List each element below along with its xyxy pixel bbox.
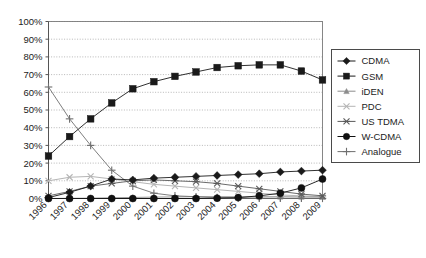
x-axis-tick-label: 2001 xyxy=(132,199,155,222)
x-axis-tick-label: 2009 xyxy=(300,199,323,222)
x-axis-tick-label: 2005 xyxy=(216,199,239,222)
chart-legend: CDMAGSMiDENPDCUS TDMAW-CDMAAnalogue xyxy=(332,50,420,163)
x-axis-tick-label: 1998 xyxy=(68,199,91,222)
diamond-marker xyxy=(150,174,158,182)
x-axis-tick-label: 2003 xyxy=(174,199,197,222)
series-gsm xyxy=(45,62,326,160)
circle-marker xyxy=(298,184,305,191)
circle-marker xyxy=(256,192,263,199)
diamond-marker xyxy=(319,166,327,174)
diamond-marker xyxy=(171,173,179,181)
circle-marker xyxy=(319,176,326,183)
y-axis-tick-label: 60% xyxy=(23,87,43,98)
circle-marker xyxy=(277,190,284,197)
circle-marker xyxy=(343,133,349,139)
chart-container: 0%10%20%30%40%50%60%70%80%90%100% 199619… xyxy=(0,0,426,258)
legend-label: Analogue xyxy=(362,146,402,157)
square-marker xyxy=(256,62,263,69)
legend-label: CDMA xyxy=(362,55,391,66)
x-axis-tick-label: 2006 xyxy=(237,199,260,222)
legend-label: iDEN xyxy=(362,86,384,97)
diamond-marker xyxy=(129,176,137,184)
y-axis-tick-label: 90% xyxy=(23,34,43,45)
square-marker xyxy=(66,133,73,140)
x-axis-tick-label: 2007 xyxy=(258,199,281,222)
asterisk-marker xyxy=(235,183,242,189)
circle-marker xyxy=(235,194,242,201)
square-marker xyxy=(214,64,221,71)
square-marker xyxy=(298,68,305,75)
square-marker xyxy=(45,153,52,160)
series-analogue xyxy=(45,83,327,202)
y-axis-tick-label: 30% xyxy=(23,140,43,151)
circle-marker xyxy=(108,195,115,202)
square-marker xyxy=(344,73,350,79)
gridlines xyxy=(49,22,323,181)
x-axis-tick-label: 2008 xyxy=(279,199,302,222)
x-axis-tick-label: 2002 xyxy=(153,199,176,222)
plus-marker xyxy=(45,83,53,91)
asterisk-marker xyxy=(256,186,263,192)
diamond-marker xyxy=(276,168,284,176)
square-marker xyxy=(319,77,326,84)
y-axis-tick-label: 10% xyxy=(23,175,43,186)
x-axis-tick-label: 1997 xyxy=(47,199,70,222)
asterisk-marker xyxy=(214,180,221,186)
circle-marker xyxy=(171,195,178,202)
square-marker xyxy=(235,62,242,69)
square-marker xyxy=(151,78,158,85)
circle-marker xyxy=(66,195,73,202)
circle-marker xyxy=(45,195,52,202)
legend-label: PDC xyxy=(362,101,382,112)
y-axis-tick-labels: 0%10%20%30%40%50%60%70%80%90%100% xyxy=(18,16,48,204)
diamond-marker xyxy=(234,171,242,179)
x-axis-tick-label: 2004 xyxy=(195,199,218,222)
y-axis-tick-label: 70% xyxy=(23,69,43,80)
circle-marker xyxy=(150,195,157,202)
circle-marker xyxy=(129,195,136,202)
series-layer xyxy=(45,62,327,203)
series-line xyxy=(49,65,323,156)
legend-label: W-CDMA xyxy=(362,131,403,142)
line-chart: 0%10%20%30%40%50%60%70%80%90%100% 199619… xyxy=(0,0,426,258)
y-axis-tick-label: 40% xyxy=(23,122,43,133)
diamond-marker xyxy=(298,167,306,175)
y-axis-tick-label: 80% xyxy=(23,51,43,62)
y-axis-tick-label: 50% xyxy=(23,104,43,115)
y-axis-tick-label: 20% xyxy=(23,158,43,169)
legend-label: GSM xyxy=(362,71,384,82)
square-marker xyxy=(172,73,179,80)
diamond-marker xyxy=(255,170,263,178)
circle-marker xyxy=(214,195,221,202)
x-axis-tick-label: 2000 xyxy=(110,199,133,222)
square-marker xyxy=(87,116,94,123)
x-axis-tick-label: 1999 xyxy=(89,199,112,222)
legend-label: US TDMA xyxy=(362,116,405,127)
circle-marker xyxy=(87,195,94,202)
y-axis-tick-label: 100% xyxy=(18,16,43,27)
circle-marker xyxy=(193,195,200,202)
diamond-marker xyxy=(213,172,221,180)
square-marker xyxy=(130,85,137,92)
square-marker xyxy=(193,69,200,76)
square-marker xyxy=(108,100,115,107)
square-marker xyxy=(277,62,284,69)
